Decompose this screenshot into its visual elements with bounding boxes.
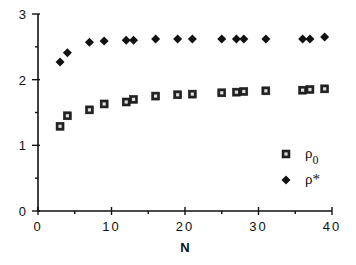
rhostar-point xyxy=(173,34,182,43)
rhostar-point xyxy=(151,34,160,43)
rhostar-point xyxy=(305,34,314,43)
rhostar-point xyxy=(217,34,226,43)
rho0-point-inner xyxy=(88,108,91,111)
rho0-point-inner xyxy=(242,90,245,93)
rhostar-point xyxy=(188,34,197,43)
rho0-point-inner xyxy=(103,102,106,105)
rhostar-point xyxy=(100,36,109,45)
x-tick-label: 40 xyxy=(323,219,341,234)
legend: ρ0ρ* xyxy=(282,145,321,187)
rhostar-point xyxy=(261,34,270,43)
x-tick-label: 30 xyxy=(249,219,267,234)
rhostar-point xyxy=(320,32,329,41)
x-tick-label: 10 xyxy=(102,219,120,234)
rho0-point-inner xyxy=(66,114,69,117)
rhostar-point xyxy=(129,36,138,45)
rho0-point-inner xyxy=(154,94,157,97)
rho0-point-inner xyxy=(308,88,311,91)
axes: 0102030400123N xyxy=(19,7,341,255)
legend-label: ρ* xyxy=(305,171,320,187)
rho0-point-inner xyxy=(58,125,61,128)
y-tick-label: 0 xyxy=(19,204,26,219)
rho0-point-inner xyxy=(176,93,179,96)
legend-diamond-icon xyxy=(282,176,291,185)
x-axis-title: N xyxy=(180,240,189,255)
rhostar-point xyxy=(85,38,94,47)
x-tick-label: 20 xyxy=(176,219,194,234)
rhostar-point xyxy=(56,57,65,66)
y-tick-label: 1 xyxy=(19,138,26,153)
rho0-point-inner xyxy=(125,100,128,103)
x-tick-label: 0 xyxy=(33,219,42,234)
y-tick-label: 2 xyxy=(19,73,26,88)
rho0-point-inner xyxy=(323,87,326,90)
legend-subscript: 0 xyxy=(313,153,319,167)
rho0-point-inner xyxy=(264,89,267,92)
scatter-chart: 0102030400123N ρ0ρ* xyxy=(0,0,356,265)
rho0-point-inner xyxy=(235,91,238,94)
rho0-point-inner xyxy=(301,89,304,92)
rho0-point-inner xyxy=(132,98,135,101)
y-tick-label: 3 xyxy=(19,7,26,22)
legend-label: ρ0 xyxy=(305,145,319,167)
rho0-point-inner xyxy=(220,91,223,94)
legend-square-icon-inner xyxy=(284,152,287,155)
data-points xyxy=(56,32,330,130)
rhostar-point xyxy=(239,34,248,43)
rho0-point-inner xyxy=(191,93,194,96)
rhostar-point xyxy=(63,48,72,57)
